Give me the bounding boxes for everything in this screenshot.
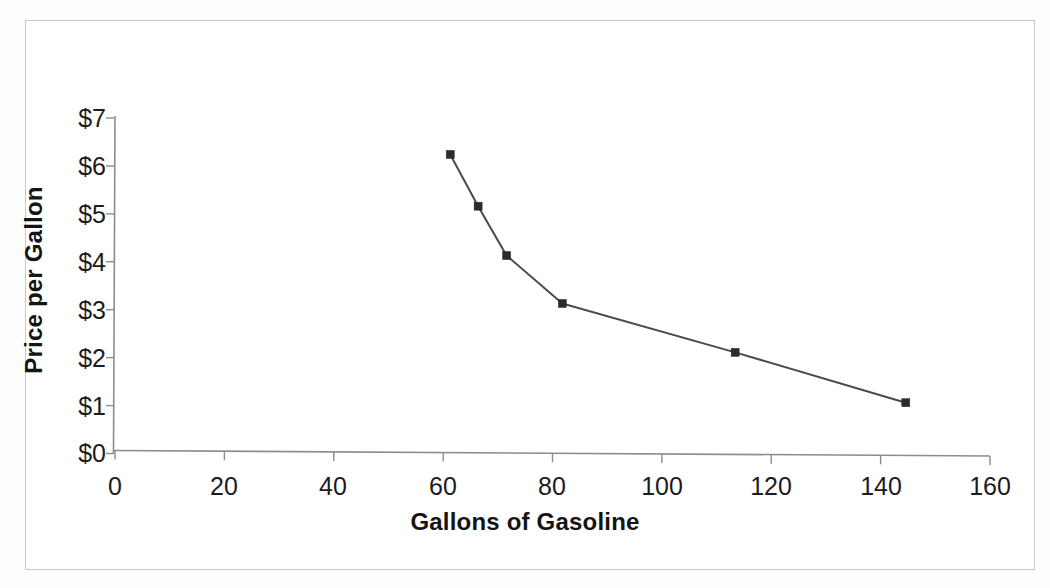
- y-tick-label-3: $3: [58, 296, 106, 325]
- x-axis-title: Gallons of Gasoline: [0, 508, 1050, 536]
- x-axis-line: [114, 451, 991, 457]
- x-tick-label-120: 120: [750, 472, 792, 501]
- y-tick-label-0: $0: [58, 439, 106, 468]
- y-tick-label-2: $2: [58, 344, 106, 373]
- chart-figure: $7 $6 $5 $4 $3 $2 $1 $0 0 20 40 60 80 10…: [0, 0, 1050, 588]
- x-tick-label-140: 140: [860, 472, 902, 501]
- data-point-marker: [731, 348, 739, 356]
- y-tick-label-1: $1: [58, 392, 106, 421]
- data-point-marker: [902, 399, 910, 407]
- data-point-marker: [474, 202, 482, 210]
- x-tick-label-80: 80: [538, 472, 566, 501]
- y-tick-label-7: $7: [58, 104, 106, 133]
- data-series-line: [450, 154, 906, 402]
- y-axis-title: Price per Gallon: [20, 186, 48, 373]
- data-point-marker: [558, 299, 566, 307]
- x-tick-label-160: 160: [969, 472, 1011, 501]
- y-tick-label-6: $6: [58, 152, 106, 181]
- y-axis-title-wrapper: Price per Gallon: [14, 120, 54, 440]
- data-point-marker: [446, 150, 454, 158]
- data-point-marker: [503, 252, 511, 260]
- x-tick-label-40: 40: [319, 472, 347, 501]
- x-tick-label-0: 0: [108, 472, 122, 501]
- y-tick-label-5: $5: [58, 200, 106, 229]
- y-tick-label-4: $4: [58, 248, 106, 277]
- x-tick-label-20: 20: [210, 472, 238, 501]
- x-tick-label-60: 60: [429, 472, 457, 501]
- x-tick-label-100: 100: [641, 472, 683, 501]
